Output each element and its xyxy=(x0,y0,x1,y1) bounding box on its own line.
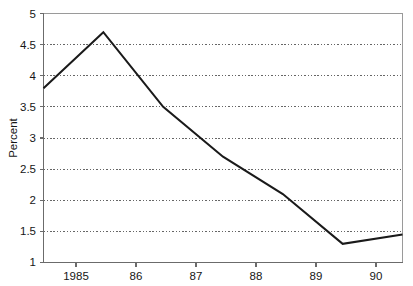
y-tick-label-3: 3 xyxy=(30,132,36,144)
percent-line-chart: 5 4.5 4 3.5 3 2.5 2 1.5 1 1985 86 87 88 … xyxy=(0,0,413,286)
x-tick-label-88: 88 xyxy=(250,270,263,282)
y-tick-labels: 5 4.5 4 3.5 3 2.5 2 1.5 1 xyxy=(20,8,37,268)
y-tick-label-1.5: 1.5 xyxy=(20,225,36,237)
y-axis-ticks xyxy=(40,14,44,263)
x-tick-label-86: 86 xyxy=(130,270,143,282)
chart-page: 5 4.5 4 3.5 3 2.5 2 1.5 1 1985 86 87 88 … xyxy=(0,0,413,286)
x-tick-label-90: 90 xyxy=(370,270,383,282)
y-axis-title: Percent xyxy=(7,117,19,157)
x-tick-label-87: 87 xyxy=(190,270,203,282)
x-tick-label-1985: 1985 xyxy=(63,270,89,282)
y-tick-label-4.5: 4.5 xyxy=(20,39,36,51)
y-tick-label-2.5: 2.5 xyxy=(20,163,36,175)
y-tick-label-4: 4 xyxy=(30,70,37,82)
x-tick-labels: 1985 86 87 88 89 90 xyxy=(63,270,382,282)
y-tick-label-5: 5 xyxy=(30,8,36,20)
y-tick-label-2: 2 xyxy=(30,194,36,206)
x-axis-ticks xyxy=(76,263,376,268)
x-tick-label-89: 89 xyxy=(310,270,323,282)
gridlines xyxy=(44,45,403,232)
y-tick-label-3.5: 3.5 xyxy=(20,101,36,113)
y-tick-label-1: 1 xyxy=(30,256,36,268)
